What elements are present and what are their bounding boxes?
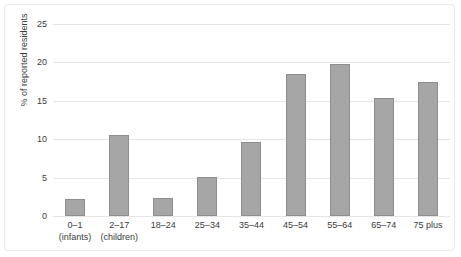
x-axis-tick-label-line1: 2–17 [109,220,129,230]
bar[interactable] [330,64,350,216]
y-axis-tick-labels: 0510152025 [5,24,47,216]
x-axis-tick-label: 2–17(children) [97,219,141,243]
x-axis-tick-label-line2: (children) [97,231,141,243]
x-axis-tick-label: 18–24 [141,219,185,243]
bar[interactable] [109,135,129,216]
bar[interactable] [65,199,85,216]
x-axis-tick-label: 55–64 [318,219,362,243]
bar-slot [141,24,185,216]
bar[interactable] [374,98,394,216]
y-axis-tick-label: 20 [7,57,47,67]
bar[interactable] [197,177,217,216]
bar[interactable] [241,142,261,216]
y-axis-tick-label: 15 [7,96,47,106]
x-axis-tick-label: 65–74 [362,219,406,243]
x-axis-tick-label: 35–44 [229,219,273,243]
x-axis-tick-label-line1: 18–24 [151,220,176,230]
bar-slot [318,24,362,216]
x-axis-tick-label-line1: 75 plus [413,220,442,230]
bar-series [53,24,450,216]
bar-slot [185,24,229,216]
bar-slot [53,24,97,216]
x-axis-tick-label-line1: 0–1 [68,220,83,230]
x-axis-tick-label-line1: 65–74 [371,220,396,230]
y-axis-tick-label: 5 [7,173,47,183]
gridline [53,216,450,217]
x-axis-tick-label-line1: 55–64 [327,220,352,230]
x-axis-tick-label-line1: 35–44 [239,220,264,230]
bar[interactable] [418,82,438,216]
bar-slot [229,24,273,216]
x-axis-tick-label-line1: 45–54 [283,220,308,230]
y-axis-tick-label: 0 [7,211,47,221]
x-axis-tick-label-line1: 25–34 [195,220,220,230]
bar-slot [274,24,318,216]
bar-slot [406,24,450,216]
x-axis-tick-label: 25–34 [185,219,229,243]
bar-slot [362,24,406,216]
y-axis-tick-label: 10 [7,134,47,144]
bar-slot [97,24,141,216]
x-axis-tick-label: 75 plus [406,219,450,243]
bar[interactable] [286,74,306,216]
x-axis-tick-label: 45–54 [274,219,318,243]
x-axis-tick-label-line2: (infants) [53,231,97,243]
y-axis-tick-label: 25 [7,19,47,29]
bar[interactable] [153,198,173,216]
x-axis-tick-label: 0–1(infants) [53,219,97,243]
chart-frame: % of reported residents 0510152025 0–1(i… [4,4,455,251]
x-axis-tick-labels: 0–1(infants)2–17(children)18–2425–3435–4… [53,219,450,243]
